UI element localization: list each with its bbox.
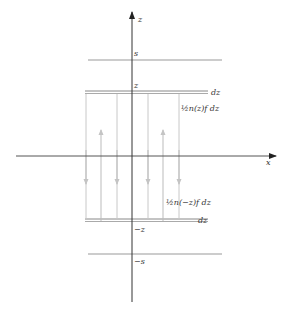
label-z: z bbox=[133, 81, 139, 90]
diagram-canvas: z x s z dz ½n(z)f dz ½n(−z)f dz dz −z −s bbox=[0, 0, 290, 317]
x-axis-label: x bbox=[266, 158, 271, 167]
label-neg-z: −z bbox=[134, 225, 146, 234]
label-flux-upper: ½n(z)f dz bbox=[181, 104, 220, 113]
label-dz-top: dz bbox=[211, 88, 221, 97]
label-flux-lower: ½n(−z)f dz bbox=[166, 198, 212, 207]
label-dz-bottom: dz bbox=[198, 216, 208, 225]
label-neg-s: −s bbox=[134, 257, 145, 266]
z-axis-label: z bbox=[137, 15, 143, 24]
label-s: s bbox=[134, 49, 138, 58]
